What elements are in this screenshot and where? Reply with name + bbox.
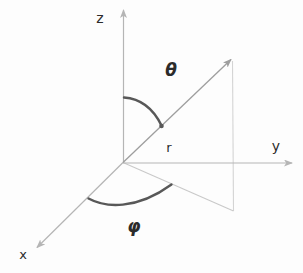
r-vector-line <box>123 60 231 163</box>
theta-angle-arc <box>124 98 162 126</box>
vertical-drop-line <box>233 61 234 211</box>
phi-label: φ <box>127 216 140 236</box>
theta-arc-end-dot <box>159 124 164 129</box>
projection-line <box>123 163 234 212</box>
diagram-canvas: z θ y r φ x <box>0 0 303 273</box>
spherical-coordinates-diagram: z θ y r φ x <box>0 0 303 273</box>
x-axis-label: x <box>19 247 27 262</box>
y-axis-label: y <box>272 138 280 154</box>
radius-label: r <box>166 140 172 155</box>
theta-label: θ <box>165 60 177 80</box>
z-axis-label: z <box>96 10 103 26</box>
phi-angle-arc <box>89 185 172 205</box>
